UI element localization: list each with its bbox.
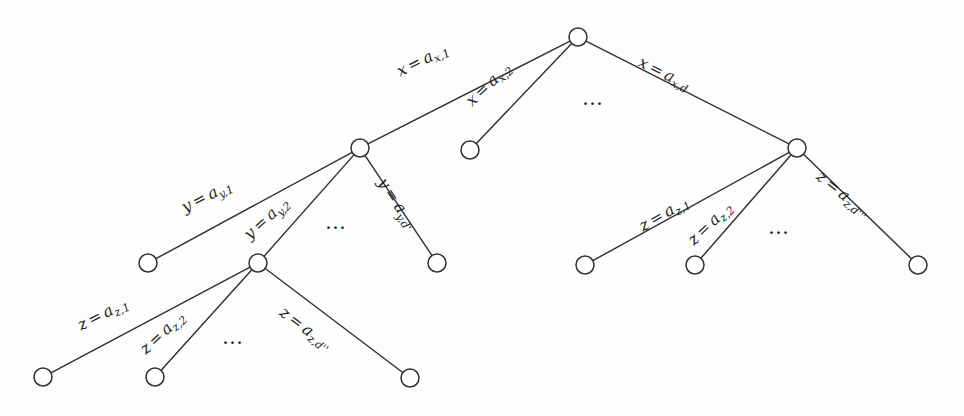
tree-node-zr2-leaf (686, 256, 704, 274)
tree-node-z-node-right (788, 139, 806, 157)
tree-node-y1-leaf (139, 254, 157, 272)
tree-node-x2-leaf (461, 141, 479, 159)
tree-node-zl2-leaf (146, 368, 164, 386)
ellipsis-y-level: … (325, 212, 350, 233)
tree-node-y-node (351, 139, 369, 157)
tree-node-root (569, 28, 587, 46)
ellipsis-z-right: … (768, 217, 793, 238)
tree-node-zrd-leaf (909, 256, 927, 274)
tree-node-z-node-left (249, 254, 267, 272)
tree-node-zr1-leaf (576, 256, 594, 274)
tree-node-zl1-leaf (34, 368, 52, 386)
tree-node-yd-leaf (428, 254, 446, 272)
tree-node-zld-leaf (401, 369, 419, 387)
ellipsis-root: … (582, 88, 607, 109)
tree-edge-e-xd (586, 41, 788, 143)
ellipsis-z-left: … (222, 327, 247, 348)
tree-diagram-canvas: x=ax,1x=ax,2x=ax,dy=ay,1y=ay,2y=ay,d'z=a… (0, 0, 964, 416)
